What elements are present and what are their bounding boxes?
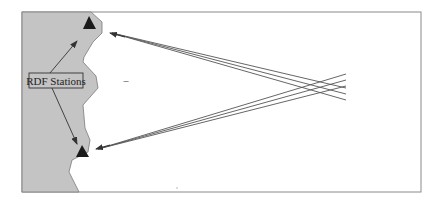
minus-mark: – [123,75,130,86]
rdf-stations-label: RDF Stations [26,75,86,87]
rdf-diagram: RDF Stations – [0,0,443,202]
